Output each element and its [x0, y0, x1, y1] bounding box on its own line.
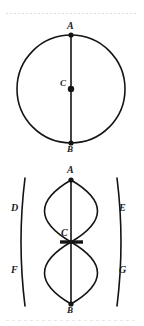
arc-side-right [117, 178, 121, 306]
label-bottom-D: D [11, 203, 18, 213]
label-bottom-C: C [61, 228, 68, 238]
geometry-drawing [0, 0, 144, 326]
figure-canvas: A C B A D E C F G B [0, 0, 144, 326]
arc-lower-left [45, 242, 72, 304]
point-marker-bottom-A [68, 177, 73, 182]
arc-upper-right [71, 180, 98, 242]
point-marker-top-C [68, 86, 74, 92]
arc-lower-right [71, 242, 98, 304]
label-bottom-B: B [67, 306, 73, 315]
label-top-C: C [60, 79, 66, 88]
arc-side-left [21, 178, 25, 306]
label-top-A: A [67, 21, 74, 31]
label-bottom-A: A [67, 165, 74, 175]
label-bottom-G: G [119, 265, 126, 275]
point-marker-top-A [68, 32, 73, 37]
label-top-B: B [67, 145, 73, 154]
label-bottom-F: F [11, 265, 18, 275]
label-bottom-E: E [119, 203, 126, 213]
